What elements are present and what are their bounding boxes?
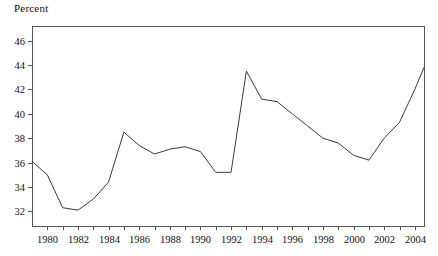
x-axis-tick-labels: 1980198219841986198819901992199419961998… [37,234,427,245]
plot-frame [32,26,424,226]
y-axis-tick-labels: 3234363840424446 [15,36,26,217]
y-axis-tick-marks [28,42,32,212]
line-chart-plot: 3234363840424446 19801982198419861988199… [0,0,438,256]
y-tick-label: 42 [15,84,26,95]
y-tick-label: 44 [15,60,26,71]
chart-container: Percent 3234363840424446 198019821984198… [0,0,438,256]
x-tick-label: 1984 [99,234,121,245]
x-tick-label: 1998 [313,234,334,245]
y-tick-label: 32 [15,206,26,217]
x-tick-label: 2002 [374,234,395,245]
x-tick-label: 2004 [405,234,427,245]
series-line-percent [32,67,424,210]
x-tick-label: 2000 [344,234,365,245]
data-series-group [32,67,424,210]
x-axis-tick-marks [48,226,416,230]
y-tick-label: 34 [15,182,26,193]
y-tick-label: 40 [15,109,26,120]
y-tick-label: 46 [15,36,26,47]
x-tick-label: 1996 [282,234,303,245]
x-tick-label: 1990 [190,234,211,245]
x-tick-label: 1988 [160,234,181,245]
x-tick-label: 1992 [221,234,242,245]
x-tick-label: 1982 [68,234,89,245]
x-tick-label: 1994 [252,234,274,245]
x-tick-label: 1980 [37,234,58,245]
y-tick-label: 36 [15,158,26,169]
x-tick-label: 1986 [129,234,150,245]
y-tick-label: 38 [15,133,26,144]
